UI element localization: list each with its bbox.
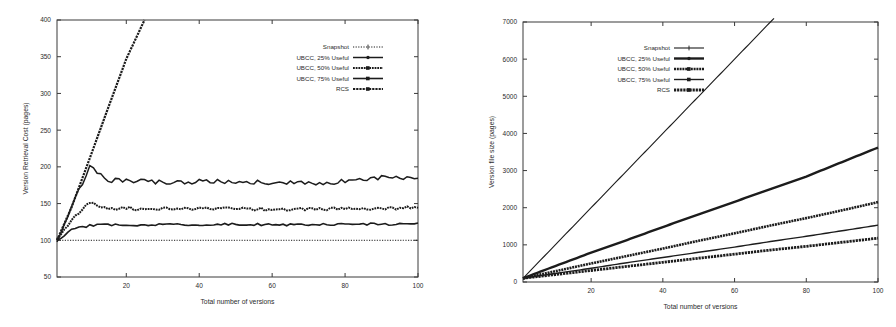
x-axis-tick-label: 60: [731, 287, 739, 294]
x-axis-tick-label: 100: [873, 287, 884, 294]
x-axis-tick-label: 40: [196, 282, 204, 289]
x-axis-tick-label: 100: [413, 282, 424, 289]
x-axis-label: Total number of versions: [663, 303, 738, 310]
y-axis-tick-label: 150: [40, 200, 51, 207]
figure-container: 5010015020025030035040020406080100Total …: [0, 0, 896, 327]
y-axis-tick-label: 2000: [503, 204, 518, 211]
legend-sample-marker: [687, 88, 691, 92]
x-axis-tick-label: 80: [803, 287, 811, 294]
version-file-size-svg: 0100020003000400050006000700020406080100…: [448, 0, 896, 327]
legend-sample-marker: [366, 56, 369, 59]
y-axis-tick-label: 100: [40, 237, 51, 244]
legend-label: Snapshot: [644, 44, 670, 51]
legend: SnapshotUBCC, 25% UsefulUBCC, 50% Useful…: [617, 44, 704, 93]
x-axis-tick-label: 20: [123, 282, 131, 289]
legend-sample-marker: [687, 78, 691, 82]
y-axis-label: Version Retrieval Cost (pages): [22, 102, 30, 194]
legend-label: RCS: [336, 85, 349, 92]
legend-label: UBCC, 25% Useful: [296, 54, 349, 61]
series-line-ubcc-50-useful: [57, 203, 418, 239]
series-line-ubcc-25-useful: [57, 166, 418, 242]
legend-sample-marker: [366, 66, 370, 70]
x-axis-tick-label: 80: [341, 282, 349, 289]
legend-label: UBCC, 75% Useful: [617, 76, 670, 83]
series-line-ubcc-75-useful: [57, 223, 418, 240]
y-axis-tick-label: 0: [513, 278, 517, 285]
y-axis-tick-label: 50: [44, 273, 52, 280]
y-axis-tick-label: 6000: [503, 56, 518, 63]
y-axis-tick-label: 350: [40, 53, 51, 60]
series-line-ubcc-75-useful: [523, 225, 878, 278]
legend-label: UBCC, 75% Useful: [296, 75, 349, 82]
y-axis-tick-label: 4000: [503, 130, 518, 137]
plot-frame: [57, 20, 418, 277]
legend-label: Snapshot: [323, 43, 349, 50]
x-axis-label: Total number of versions: [200, 298, 275, 305]
y-axis-tick-label: 7000: [503, 18, 518, 25]
legend-label: UBCC, 50% Useful: [296, 64, 349, 71]
legend-sample-marker: [366, 87, 370, 91]
x-axis-tick-label: 40: [659, 287, 667, 294]
y-axis-tick-label: 1000: [503, 241, 518, 248]
legend-label: RCS: [657, 86, 670, 93]
right-chart-panel: 0100020003000400050006000700020406080100…: [448, 0, 896, 327]
version-retrieval-cost-svg: 5010015020025030035040020406080100Total …: [0, 0, 448, 327]
left-chart-panel: 5010015020025030035040020406080100Total …: [0, 0, 448, 327]
legend-label: UBCC, 25% Useful: [617, 55, 670, 62]
legend-sample-marker: [687, 57, 690, 60]
y-axis-tick-label: 250: [40, 127, 51, 134]
x-axis-tick-label: 20: [588, 287, 596, 294]
y-axis-tick-label: 5000: [503, 93, 518, 100]
legend: SnapshotUBCC, 25% UsefulUBCC, 50% Useful…: [296, 43, 383, 92]
legend-label: UBCC, 50% Useful: [617, 65, 670, 72]
y-axis-label: Version file size (pages): [488, 116, 496, 188]
y-axis-tick-label: 300: [40, 90, 51, 97]
legend-sample-marker: [366, 77, 370, 81]
y-axis-tick-label: 400: [40, 16, 51, 23]
legend-sample-marker: [687, 67, 691, 71]
y-axis-tick-label: 200: [40, 163, 51, 170]
y-axis-tick-label: 3000: [503, 167, 518, 174]
x-axis-tick-label: 60: [269, 282, 277, 289]
